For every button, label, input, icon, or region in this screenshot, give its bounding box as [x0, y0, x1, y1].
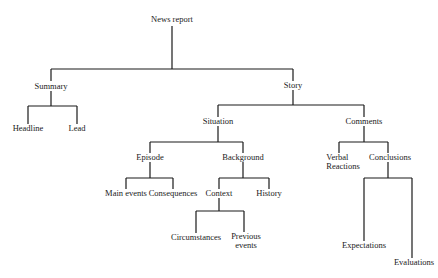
node-expectations: Expectations — [341, 241, 387, 250]
node-background: Background — [221, 153, 265, 162]
node-consequences: Consequences — [148, 189, 199, 198]
node-lead: Lead — [68, 124, 87, 133]
node-context: Context — [205, 189, 234, 198]
node-circumstances: Circumstances — [170, 233, 222, 242]
node-history: History — [255, 189, 283, 198]
node-evaluations: Evaluations — [393, 258, 435, 267]
node-verbal-reactions-line2: Reactions — [326, 162, 360, 171]
node-episode: Episode — [135, 153, 164, 162]
node-conclusions: Conclusions — [368, 153, 412, 162]
node-previous-events-line2: events — [231, 241, 261, 250]
node-main-events: Main events — [104, 189, 148, 198]
node-previous-events: Previous events — [230, 232, 262, 250]
node-headline: Headline — [12, 124, 45, 133]
node-story: Story — [283, 81, 303, 90]
node-summary: Summary — [33, 82, 68, 91]
node-situation: Situation — [202, 117, 235, 126]
node-verbal-reactions: Verbal Reactions — [325, 153, 361, 171]
node-news-report: News report — [150, 15, 194, 24]
node-comments: Comments — [345, 117, 384, 126]
